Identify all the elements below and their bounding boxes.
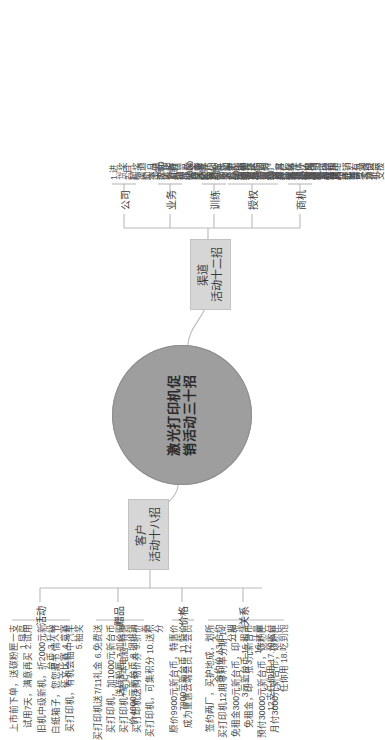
leaf-item[interactable]: 月付3000元新台币，碳粉匣任你用 18.吃到饱 — [271, 624, 290, 740]
category-channel-gongsi[interactable]: 公司 — [116, 188, 133, 212]
leaf-number: 2.试用 — [23, 624, 33, 649]
central-topic-line2: 销活动三十招 — [182, 375, 198, 456]
leaf-item[interactable]: 试用7天，满意再买 2.试用 — [24, 624, 33, 740]
central-topic-line1: 激光打印机促 — [166, 375, 182, 456]
leaf-number: 12.项目支援 — [299, 162, 328, 180]
leaf-separator — [145, 654, 155, 656]
leaf-separator — [183, 654, 193, 656]
leaf-text: 买打印机12期零利率分期 — [218, 638, 228, 738]
leaf-item[interactable]: 买打印机送7/11礼金 6.免费送 — [94, 624, 103, 740]
leaf-number: 4.销售竞赛 — [169, 162, 198, 180]
leaf-separator — [132, 649, 142, 651]
branch-channel-label-line2: 活动十二招 — [210, 247, 224, 302]
leaf-number: 18.吃到饱 — [279, 624, 289, 663]
leaf-text: 试用7天，满意再买 — [23, 652, 33, 729]
branch-customer[interactable]: 客户 活动十八招 — [128, 499, 169, 570]
leaf-number: 5.抽奖 — [74, 624, 84, 649]
leaf-item[interactable]: 12.项目支援 百年企业，享受项目支援 — [300, 162, 385, 180]
leaf-text: 买打印机，可集积分 — [145, 656, 155, 737]
branch-channel-label-line1: 渠道 — [196, 247, 210, 302]
leaf-number: 10.送积分 — [145, 624, 164, 654]
leaf-text: 成为重惠云端会员 — [183, 656, 193, 728]
category-channel-yewu[interactable]: 业务 — [162, 188, 179, 212]
category-channel-xunlian[interactable]: 训练 — [206, 188, 223, 212]
leaf-number: 2.目标奖励 — [123, 162, 152, 180]
leaf-item[interactable]: 成为重惠云端会员 12.会员 — [184, 624, 193, 740]
leaf-item[interactable]: 买打印机，有机会抽中汽车 5.抽奖 — [66, 624, 85, 740]
central-topic[interactable]: 激光打印机促 销活动三十招 — [112, 345, 252, 485]
leaf-item[interactable]: 买打印机，可集积分 10.送积分 — [146, 624, 165, 740]
leaf-text: 买打印机送购物价券 — [132, 652, 142, 733]
branch-customer-label-line1: 客户 — [134, 507, 148, 562]
leaf-number: 12.会员 — [183, 624, 193, 654]
leaf-separator — [23, 649, 33, 651]
category-channel-shangji[interactable]: 商机 — [292, 188, 309, 212]
leaf-text: 百年企业，享受项目支援 — [327, 162, 384, 180]
leaf-number: 6.免费送 — [93, 624, 103, 658]
category-channel-shouquan[interactable]: 授权 — [244, 188, 261, 212]
branch-channel[interactable]: 渠道 活动十二招 — [190, 239, 231, 310]
branch-customer-label-line2: 活动十八招 — [148, 507, 162, 562]
leaf-separator — [279, 663, 289, 665]
leaf-text: 买打印机送7/11礼金 — [93, 661, 103, 740]
leaf-separator — [93, 658, 103, 660]
